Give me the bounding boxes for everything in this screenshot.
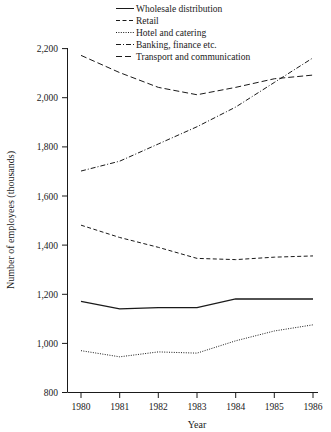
x-axis-ticks: 1980 1981 1982 1983 1984 1985 1986 bbox=[72, 393, 323, 413]
series-line-retail bbox=[81, 225, 313, 259]
x-tick-label-5: 1985 bbox=[265, 402, 284, 412]
x-axis-title: Year bbox=[188, 419, 207, 430]
legend-entry-1: Retail bbox=[116, 16, 159, 26]
y-tick-label-3: 1,400 bbox=[37, 241, 59, 251]
y-tick-label-1: 1,000 bbox=[37, 339, 59, 349]
y-tick-label-0: 800 bbox=[44, 388, 59, 398]
legend-label-2: Hotel and catering bbox=[136, 28, 206, 38]
legend-label-1: Retail bbox=[136, 16, 159, 26]
chart-series-group bbox=[81, 55, 313, 356]
x-tick-label-3: 1983 bbox=[188, 402, 207, 412]
x-tick-label-2: 1982 bbox=[149, 402, 168, 412]
y-tick-label-6: 2,000 bbox=[37, 93, 59, 103]
x-tick-label-1: 1981 bbox=[110, 402, 129, 412]
chart-legend: Wholesale distribution Retail Hotel and … bbox=[116, 4, 250, 62]
y-tick-label-7: 2,200 bbox=[37, 44, 59, 54]
legend-entry-4: Transport and communication bbox=[116, 52, 250, 62]
series-line-banking-finance-etc bbox=[81, 58, 313, 171]
x-tick-label-4: 1984 bbox=[226, 402, 245, 412]
y-tick-label-5: 1,800 bbox=[37, 142, 59, 152]
legend-label-4: Transport and communication bbox=[136, 52, 250, 62]
legend-entry-0: Wholesale distribution bbox=[116, 4, 223, 14]
legend-entry-2: Hotel and catering bbox=[116, 28, 206, 38]
x-tick-label-6: 1986 bbox=[304, 402, 323, 412]
legend-entry-3: Banking, finance etc. bbox=[116, 40, 217, 50]
y-axis-title: Number of employees (thousands) bbox=[5, 151, 17, 289]
y-tick-label-4: 1,600 bbox=[37, 192, 59, 202]
y-axis-ticks: 800 1,000 1,200 1,400 1,600 1,800 2,000 … bbox=[37, 44, 68, 398]
series-line-wholesale-distribution bbox=[81, 299, 313, 309]
y-tick-label-2: 1,200 bbox=[37, 290, 59, 300]
x-tick-label-0: 1980 bbox=[72, 402, 91, 412]
series-line-hotel-and-catering bbox=[81, 325, 313, 357]
line-chart-svg: Wholesale distribution Retail Hotel and … bbox=[0, 0, 331, 432]
legend-label-0: Wholesale distribution bbox=[136, 4, 223, 14]
legend-label-3: Banking, finance etc. bbox=[136, 40, 217, 50]
chart-figure: Wholesale distribution Retail Hotel and … bbox=[0, 0, 331, 432]
